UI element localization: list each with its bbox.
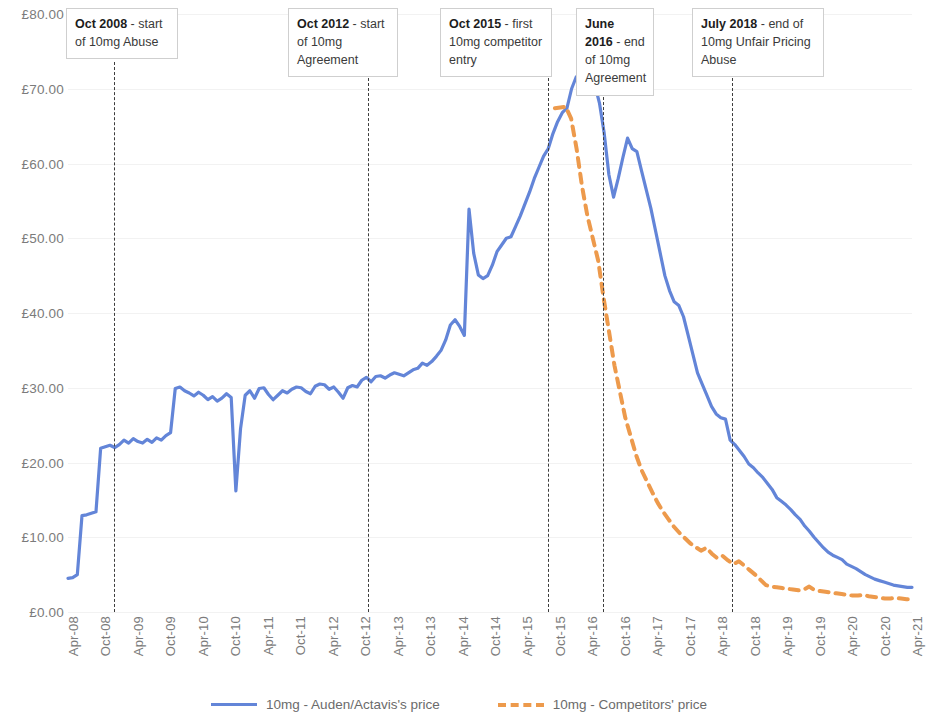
x-axis-tick-label: Oct-12 [365,616,380,656]
y-axis-tick-label: £70.00 [2,81,64,96]
annotation-box: Oct 2015 - first 10mg competitor entry [440,8,552,77]
y-axis-tick-label: £60.00 [2,156,64,171]
x-axis-tick-label: Oct-09 [170,616,185,656]
annotation-date: July 2018 [701,17,757,31]
annotation-box: Oct 2012 - start of 10mg Agreement [288,8,398,77]
series-line-competitors [555,107,912,600]
x-axis-tick-label: Oct-14 [495,616,510,656]
legend-swatch-solid-line [211,703,257,706]
y-axis-tick-label: £80.00 [2,7,64,22]
series-line-auden [68,72,912,588]
x-axis-tick-label: Apr-12 [333,616,348,656]
x-axis-tick-label: Apr-08 [73,616,88,656]
legend-label-auden: 10mg - Auden/Actavis's price [266,697,440,712]
x-axis-tick-label: Apr-16 [592,616,607,656]
annotation-date: June 2016 [585,17,614,49]
y-axis-tick-label: £0.00 [2,605,64,620]
x-axis-tick-label: Oct-18 [755,616,770,656]
x-axis-tick-label: Oct-20 [885,616,900,656]
annotation-vertical-line [368,78,369,612]
annotation-vertical-line [114,62,115,612]
series-layer [68,14,912,612]
annotation-box: June 2016 - end of 10mg Agreement [576,8,654,96]
x-axis-tick-label: Apr-21 [917,616,930,656]
annotation-vertical-line [548,78,549,612]
annotation-date: Oct 2015 [449,17,501,31]
annotation-box: Oct 2008 - start of 10mg Abuse [66,8,178,59]
gridline [68,612,912,613]
y-axis: £0.00£10.00£20.00£30.00£40.00£50.00£60.0… [0,0,64,612]
x-axis-tick-label: Apr-20 [852,616,867,656]
chart-legend: 10mg - Auden/Actavis's price 10mg - Comp… [0,697,918,712]
y-axis-tick-label: £40.00 [2,306,64,321]
x-axis-tick-label: Apr-15 [527,616,542,656]
annotation-date: Oct 2008 [75,17,127,31]
plot-area [68,14,912,612]
legend-swatch-dashed-line [498,703,544,707]
x-axis-tick-label: Apr-13 [398,616,413,656]
annotation-vertical-line [603,92,604,612]
x-axis: Apr-08Oct-08Apr-09Oct-09Apr-10Oct-10Apr-… [68,616,912,692]
x-axis-tick-label: Oct-13 [430,616,445,656]
x-axis-tick-label: Apr-11 [268,616,283,655]
y-axis-tick-label: £30.00 [2,380,64,395]
x-axis-tick-label: Oct-17 [690,616,705,656]
annotation-date: Oct 2012 [297,17,349,31]
legend-label-competitors: 10mg - Competitors' price [553,697,707,712]
annotation-box: July 2018 - end of 10mg Unfair Pricing A… [692,8,824,77]
x-axis-tick-label: Oct-15 [560,616,575,656]
y-axis-tick-label: £10.00 [2,530,64,545]
x-axis-tick-label: Apr-09 [138,616,153,656]
x-axis-tick-label: Apr-14 [463,616,478,656]
annotation-vertical-line [732,78,733,612]
x-axis-tick-label: Apr-17 [657,616,672,656]
x-axis-tick-label: Oct-11 [300,616,315,655]
x-axis-tick-label: Apr-18 [722,616,737,656]
x-axis-tick-label: Apr-19 [787,616,802,656]
legend-item-auden[interactable]: 10mg - Auden/Actavis's price [211,697,440,712]
x-axis-tick-label: Oct-10 [235,616,250,656]
y-axis-tick-label: £50.00 [2,231,64,246]
x-axis-tick-label: Oct-19 [820,616,835,656]
y-axis-tick-label: £20.00 [2,455,64,470]
x-axis-tick-label: Apr-10 [203,616,218,656]
x-axis-tick-label: Oct-08 [105,616,120,656]
legend-item-competitors[interactable]: 10mg - Competitors' price [498,697,707,712]
x-axis-tick-label: Oct-16 [625,616,640,656]
